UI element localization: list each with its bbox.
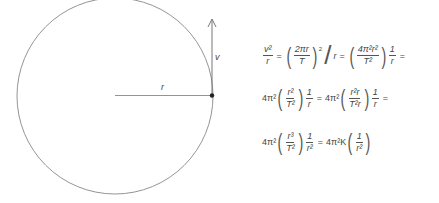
fraction: 1r² [306,131,314,154]
equation-line-2: 4π² ( r²T² ) 1r = 4π² ( r²rT²r ) 1r = [262,86,391,110]
fraction: 1r [306,87,313,110]
radius-label: r [161,82,164,92]
fraction: 4π²r²T² [357,44,379,67]
fraction: 2πrT [294,44,310,67]
velocity-label: v [215,52,220,62]
fraction: v²r [263,44,273,67]
fraction: r²T² [285,87,296,110]
fraction: r³T² [285,131,296,154]
fraction: 1r [389,44,396,67]
fraction: 1r² [355,131,363,154]
equation-line-3: 4π² ( r³T² ) 1r² = 4π²K ( 1r² ) [262,130,372,154]
orbit-circle [17,0,213,194]
fraction: 1r [372,87,379,110]
equation-line-1: v²r = ( 2πrT ) 2 / r = ( 4π²r²T² ) 1r = [262,40,408,71]
fraction: r²rT²r [348,87,362,110]
orbiting-body-dot [210,93,214,97]
